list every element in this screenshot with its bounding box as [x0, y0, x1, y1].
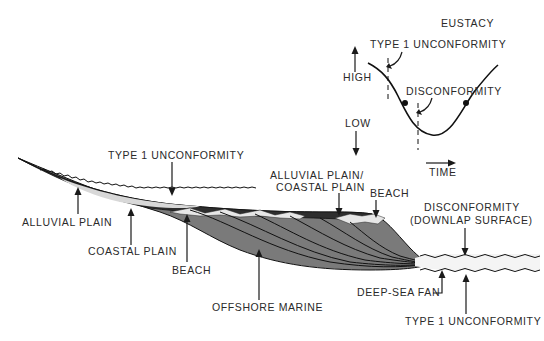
coastal-plain-light-band: [60, 178, 200, 208]
curve-point-right: [463, 100, 469, 106]
eustacy-inset: EUSTACY TYPE 1 UNCONFORMITY HIGH DISCONF…: [343, 17, 506, 178]
deep-sea-fan-label: DEEP-SEA FAN: [357, 286, 440, 298]
deep-sea-fan: [415, 254, 540, 270]
type1-unconformity-bottom-label: TYPE 1 UNCONFORMITY: [405, 315, 541, 327]
eustatic-curve: [368, 63, 498, 135]
high-arrow-icon: [352, 46, 359, 72]
alluvial-coastal-plain-label-line2: COASTAL PLAIN: [276, 181, 365, 193]
beach-left-label: BEACH: [172, 264, 211, 276]
curve-point-left: [402, 100, 408, 106]
sequence-stratigraphy-diagram: EUSTACY TYPE 1 UNCONFORMITY HIGH DISCONF…: [0, 0, 544, 341]
disconformity-label-line2: (DOWNLAP SURFACE): [410, 214, 533, 226]
inset-type1-unconformity-label: TYPE 1 UNCONFORMITY: [370, 38, 506, 50]
low-arrow-icon: [353, 131, 360, 156]
time-label: TIME: [429, 166, 456, 178]
low-label: LOW: [345, 117, 371, 129]
type1-unconformity-top-label: TYPE 1 UNCONFORMITY: [108, 149, 244, 161]
offshore-marine-label: OFFSHORE MARINE: [212, 301, 323, 313]
beach-right-label: BEACH: [370, 187, 409, 199]
alluvial-coastal-plain-label-line1: ALLUVIAL PLAIN/: [270, 169, 364, 181]
coastal-plain-label: COASTAL PLAIN: [88, 245, 177, 257]
alluvial-plain-label: ALLUVIAL PLAIN: [22, 216, 112, 228]
disconformity-label-line1: DISCONFORMITY: [424, 201, 520, 213]
inset-disconformity-label: DISCONFORMITY: [406, 85, 502, 97]
high-label: HIGH: [343, 71, 372, 83]
eustacy-title: EUSTACY: [441, 17, 494, 29]
